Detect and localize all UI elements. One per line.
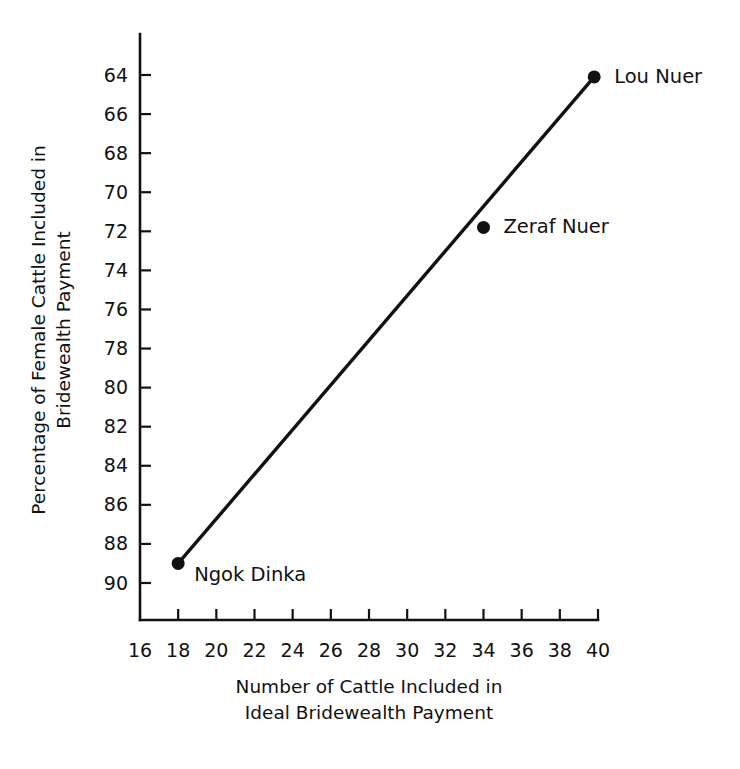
chart-figure: 6466687072747678808284868890 16182022242… <box>0 0 740 769</box>
data-point-lou-nuer <box>588 70 601 83</box>
data-point-label-zeraf-nuer: Zeraf Nuer <box>504 215 610 238</box>
x-tick-label-24: 24 <box>281 639 305 661</box>
y-tick-label-78: 78 <box>104 337 128 359</box>
y-tick-label-64: 64 <box>104 64 128 86</box>
data-point-label-lou-nuer: Lou Nuer <box>614 65 703 88</box>
y-tick-label-82: 82 <box>104 415 128 437</box>
x-tick-label-32: 32 <box>433 639 457 661</box>
y-axis-ticks: 6466687072747678808284868890 <box>104 64 151 594</box>
x-tick-label-36: 36 <box>510 639 534 661</box>
x-tick-label-38: 38 <box>548 639 572 661</box>
y-tick-label-80: 80 <box>104 376 128 398</box>
data-point-label-ngok-dinka: Ngok Dinka <box>194 563 306 586</box>
y-tick-label-76: 76 <box>104 298 128 320</box>
x-tick-label-28: 28 <box>357 639 381 661</box>
x-tick-label-40: 40 <box>586 639 610 661</box>
data-point-zeraf-nuer <box>477 221 490 234</box>
y-tick-label-72: 72 <box>104 220 128 242</box>
x-tick-label-26: 26 <box>319 639 343 661</box>
y-axis-title-line-1: Percentage of Female Cattle Included in <box>28 145 49 514</box>
x-tick-label-34: 34 <box>471 639 495 661</box>
data-point-labels: Ngok DinkaZeraf NuerLou Nuer <box>194 65 703 587</box>
y-tick-label-66: 66 <box>104 103 128 125</box>
data-point-ngok-dinka <box>172 557 185 570</box>
y-tick-label-84: 84 <box>104 454 128 476</box>
y-axis-title-line-2: Bridewealth Payment <box>53 231 74 428</box>
x-axis-title-line-1: Number of Cattle Included in <box>236 676 503 697</box>
x-tick-label-22: 22 <box>242 639 266 661</box>
y-tick-label-70: 70 <box>104 181 128 203</box>
x-tick-label-16: 16 <box>128 639 152 661</box>
x-axis-title-line-2: Ideal Bridewealth Payment <box>245 702 493 723</box>
x-axis-ticks: 16182022242628303234363840 <box>128 609 610 661</box>
y-tick-label-88: 88 <box>104 532 128 554</box>
y-tick-label-74: 74 <box>104 259 128 281</box>
y-tick-label-68: 68 <box>104 142 128 164</box>
x-tick-label-20: 20 <box>204 639 228 661</box>
x-tick-label-30: 30 <box>395 639 419 661</box>
x-tick-label-18: 18 <box>166 639 190 661</box>
y-tick-label-90: 90 <box>104 572 128 594</box>
y-tick-label-86: 86 <box>104 493 128 515</box>
chart-canvas: 6466687072747678808284868890 16182022242… <box>0 0 740 769</box>
trend-line <box>178 77 594 564</box>
